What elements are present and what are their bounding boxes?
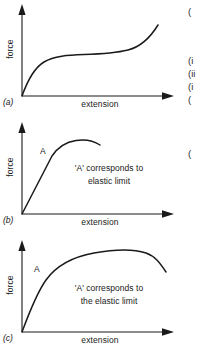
- y-axis-arrowhead-icon: [18, 122, 25, 133]
- x-axis-label-b: extension: [48, 217, 152, 227]
- y-axis-arrowhead-icon: [18, 240, 25, 251]
- panel-label-c: (c): [3, 333, 13, 343]
- annotation-line-1: 'A' corresponds to: [50, 162, 168, 175]
- x-axis-label-a: extension: [48, 99, 152, 109]
- elastic-limit-point-label-c: A: [34, 264, 40, 274]
- annotation-c: 'A' corresponds to the elastic limit: [50, 282, 168, 308]
- panel-label-b: (b): [3, 215, 13, 225]
- panel-label-a: (a): [3, 97, 13, 107]
- y-axis-arrowhead-icon: [18, 4, 25, 15]
- figure-panel-c: force extension (c) A 'A' corresponds to…: [0, 236, 201, 354]
- force-extension-curve-a: [22, 25, 158, 96]
- annotation-line-2: the elastic limit: [50, 295, 168, 308]
- y-axis-label-b: force: [5, 144, 15, 190]
- annotation-line-1: 'A' corresponds to: [50, 282, 168, 295]
- x-axis-arrowhead-icon: [162, 210, 174, 218]
- annotation-line-2: elastic limit: [50, 175, 168, 188]
- x-axis-arrowhead-icon: [162, 328, 174, 336]
- figure-panel-a: force extension (a): [0, 0, 201, 118]
- x-axis-arrowhead-icon: [162, 92, 174, 100]
- x-axis-label-c: extension: [48, 335, 152, 345]
- y-axis-label-c: force: [5, 262, 15, 308]
- y-axis-label-a: force: [5, 26, 15, 72]
- annotation-b: 'A' corresponds to elastic limit: [50, 162, 168, 188]
- figure-panel-b: force extension (b) A 'A' corresponds to…: [0, 118, 201, 236]
- elastic-limit-point-label-b: A: [40, 146, 46, 156]
